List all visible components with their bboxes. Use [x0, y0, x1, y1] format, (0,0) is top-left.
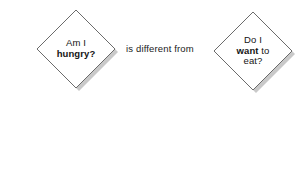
- diagram-canvas: Am I hungry? is different from Do I want…: [0, 0, 304, 192]
- diamond-do-i-want-to-eat[interactable]: Do I want to eat?: [211, 9, 295, 93]
- diamond-shape-icon: [34, 7, 118, 91]
- diamond-am-i-hungry[interactable]: Am I hungry?: [34, 7, 118, 91]
- diagram-row-1: Am I hungry? is different from Do I want…: [0, 0, 304, 96]
- connector-label-is-different-from: is different from: [126, 44, 194, 54]
- diagram-row-2: And Have 20 min. to eat? is better than: [0, 96, 304, 192]
- diamond-shape-icon: [211, 9, 295, 93]
